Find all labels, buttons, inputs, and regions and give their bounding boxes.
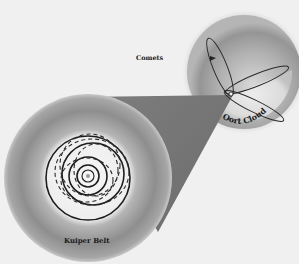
label-kuiper-belt: Kuiper Belt (64, 236, 110, 245)
sun-dot (86, 174, 90, 178)
sun-point (229, 92, 233, 96)
label-comets: Comets (136, 54, 164, 62)
solar-system-diagram: Comets Oort Cloud Kuiper Belt (0, 0, 299, 264)
diagram-canvas: Comets Oort Cloud Kuiper Belt (0, 0, 299, 264)
